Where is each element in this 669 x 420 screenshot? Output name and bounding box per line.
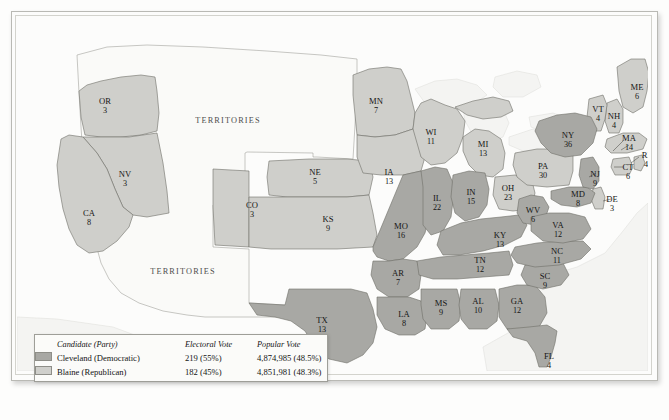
state-abbr-IA: IA: [384, 167, 394, 177]
legend-candidate-democratic: Cleveland (Democratic): [57, 352, 185, 366]
state-abbr-MA: MA: [622, 133, 637, 143]
legend-electoral-header: Electoral Vote: [185, 335, 257, 352]
state-electoral-votes-MD: 8: [576, 199, 580, 208]
state-abbr-NV: NV: [119, 169, 132, 179]
territory-label-north: TERRITORIES: [195, 116, 261, 125]
state-electoral-votes-FL: 4: [547, 361, 551, 370]
state-electoral-votes-AL: 10: [474, 306, 482, 315]
state-abbr-KS: KS: [323, 214, 334, 224]
state-abbr-FL: FL: [544, 351, 554, 361]
state-electoral-votes-IA: 13: [385, 177, 393, 186]
state-label-AL: AL10: [472, 296, 483, 315]
legend-row-republican: Blaine (Republican) 182 (45%) 4,851,981 …: [35, 366, 327, 380]
state-abbr-LA: LA: [398, 309, 410, 319]
state-abbr-WI: WI: [426, 127, 437, 137]
state-abbr-VT: VT: [592, 104, 604, 114]
state-abbr-PA: PA: [538, 161, 549, 171]
state-abbr-CA: CA: [83, 208, 96, 218]
state-electoral-votes-MI: 13: [479, 149, 487, 158]
territory-label-south: TERRITORIES: [150, 267, 216, 276]
legend-candidate-header: Candidate (Party): [57, 335, 185, 352]
state-CO: [213, 169, 249, 247]
state-abbr-ME: ME: [631, 82, 644, 92]
state-electoral-votes-VA: 12: [554, 230, 562, 239]
state-abbr-AR: AR: [392, 268, 404, 278]
legend-popular-republican: 4,851,981 (48.3%): [257, 366, 327, 380]
state-GA: [499, 285, 547, 331]
state-abbr-MO: MO: [394, 221, 408, 231]
state-electoral-votes-KS: 9: [326, 224, 330, 233]
state-abbr-RI: RI: [642, 150, 648, 160]
legend-header-row: Candidate (Party) Electoral Vote Popular…: [35, 335, 327, 352]
legend-candidate-republican: Blaine (Republican): [57, 366, 185, 380]
state-electoral-votes-MS: 9: [439, 308, 443, 317]
state-abbr-WV: WV: [526, 205, 541, 215]
state-abbr-NJ: NJ: [590, 169, 600, 179]
legend-popular-democratic: 4,874,985 (48.5%): [257, 352, 327, 366]
state-abbr-MI: MI: [478, 139, 489, 149]
state-NE: [267, 159, 373, 197]
state-abbr-MD: MD: [571, 189, 585, 199]
state-abbr-CO: CO: [246, 200, 258, 210]
state-abbr-TX: TX: [316, 315, 328, 325]
state-KS: [249, 195, 377, 249]
state-electoral-votes-WI: 11: [427, 137, 435, 146]
legend-swatch-republican: [35, 366, 52, 375]
state-electoral-votes-SC: 9: [543, 281, 547, 290]
legend-row-democratic: Cleveland (Democratic) 219 (55%) 4,874,9…: [35, 352, 327, 366]
state-label-WI: WI11: [426, 127, 437, 146]
state-abbr-NC: NC: [551, 246, 563, 256]
legend-swatch-header: [35, 335, 57, 352]
legend-electoral-republican: 182 (45%): [185, 366, 257, 380]
state-abbr-GA: GA: [511, 296, 524, 306]
map-plate: TERRITORIES TERRITORIES OR3NV3CA8CO3NE5K…: [17, 17, 648, 371]
state-electoral-votes-DE: 3: [610, 204, 614, 213]
state-electoral-votes-NC: 11: [553, 256, 561, 265]
state-abbr-MN: MN: [369, 96, 384, 106]
state-abbr-NH: NH: [608, 111, 620, 121]
state-electoral-votes-CA: 8: [87, 218, 91, 227]
map-figure: TERRITORIES TERRITORIES OR3NV3CA8CO3NE5K…: [0, 0, 669, 420]
state-electoral-votes-TX: 13: [318, 325, 326, 334]
state-abbr-NE: NE: [309, 167, 320, 177]
state-abbr-OH: OH: [502, 183, 514, 193]
legend-popular-header: Popular Vote: [257, 335, 327, 352]
state-electoral-votes-NJ: 9: [593, 179, 597, 188]
state-label-IL: IL22: [433, 193, 441, 212]
state-OR: [79, 75, 159, 137]
state-abbr-VA: VA: [552, 220, 564, 230]
state-electoral-votes-WV: 6: [531, 215, 535, 224]
state-electoral-votes-CO: 3: [250, 210, 254, 219]
state-electoral-votes-CT: 6: [626, 172, 630, 181]
state-electoral-votes-PA: 30: [539, 171, 547, 180]
state-electoral-votes-IL: 22: [433, 203, 441, 212]
state-abbr-MS: MS: [435, 298, 448, 308]
state-electoral-votes-NE: 5: [313, 177, 317, 186]
state-electoral-votes-LA: 8: [402, 319, 406, 328]
state-abbr-TN: TN: [474, 255, 486, 265]
state-abbr-IL: IL: [433, 193, 441, 203]
state-electoral-votes-MO: 16: [397, 231, 405, 240]
map-legend: Candidate (Party) Electoral Vote Popular…: [34, 334, 328, 382]
state-abbr-OR: OR: [99, 96, 111, 106]
state-electoral-votes-TN: 12: [476, 265, 484, 274]
state-abbr-AL: AL: [472, 296, 483, 306]
legend-swatch-democratic: [35, 352, 52, 361]
state-abbr-IN: IN: [466, 187, 476, 197]
state-label-IN: IN15: [466, 187, 476, 206]
state-electoral-votes-IN: 15: [467, 197, 475, 206]
state-abbr-KY: KY: [494, 230, 506, 240]
state-electoral-votes-RI: 4: [644, 160, 648, 169]
state-electoral-votes-OH: 23: [504, 193, 512, 202]
state-label-IA: IA13: [384, 167, 394, 186]
state-electoral-votes-ME: 6: [635, 92, 639, 101]
state-electoral-votes-OR: 3: [103, 106, 107, 115]
state-electoral-votes-VT: 4: [596, 114, 600, 123]
state-abbr-DE: DE: [606, 194, 617, 204]
state-label-MI: MI13: [478, 139, 489, 158]
state-electoral-votes-NY: 36: [564, 140, 572, 149]
state-electoral-votes-MN: 7: [374, 106, 378, 115]
state-electoral-votes-MA: 14: [625, 143, 633, 152]
legend-electoral-democratic: 219 (55%): [185, 352, 257, 366]
state-abbr-NY: NY: [562, 130, 574, 140]
